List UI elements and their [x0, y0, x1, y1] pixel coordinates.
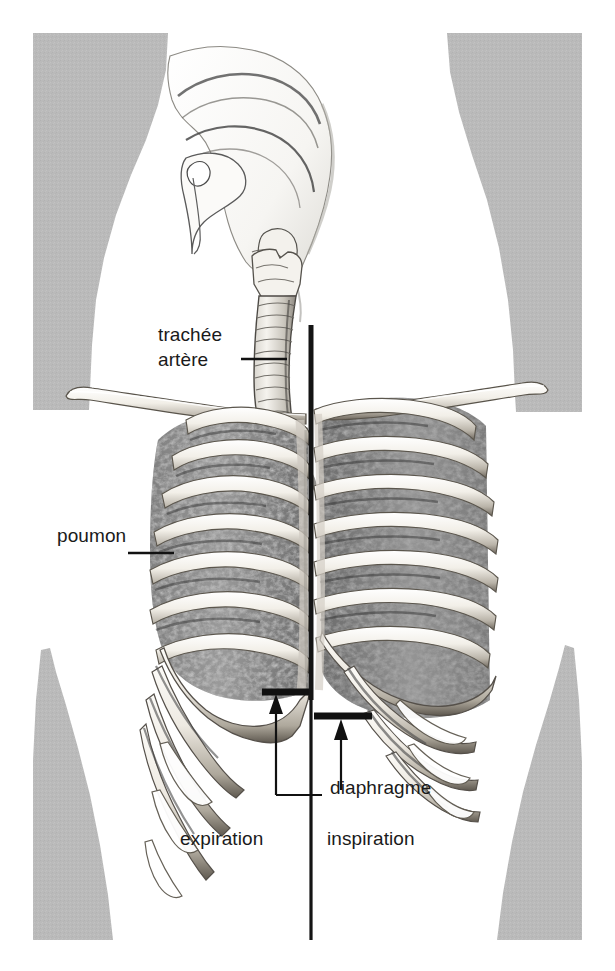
- label-expiration: expiration: [180, 828, 263, 850]
- label-trachee-line1: trachée: [158, 322, 222, 347]
- label-poumon: poumon: [57, 525, 126, 547]
- respiratory-system-figure: [0, 0, 615, 971]
- label-trachee-line2: artère: [158, 347, 222, 372]
- head-sagittal-section: [168, 47, 333, 322]
- larynx: [252, 249, 302, 298]
- label-diaphragme: diaphragme: [330, 777, 431, 799]
- illustration-canvas: trachée artère poumon diaphragme expirat…: [0, 0, 615, 971]
- inspiration-arrowhead: [334, 719, 348, 740]
- label-trachee-artere: trachée artère: [158, 322, 222, 372]
- label-inspiration: inspiration: [327, 828, 415, 850]
